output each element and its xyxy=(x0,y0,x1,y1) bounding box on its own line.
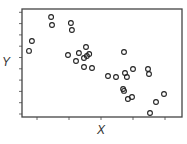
data-point xyxy=(106,74,111,79)
data-point xyxy=(114,75,119,80)
data-point xyxy=(49,15,54,20)
data-point xyxy=(82,65,87,70)
data-point xyxy=(70,28,75,33)
data-point xyxy=(90,66,95,71)
data-point xyxy=(74,59,79,64)
data-point xyxy=(125,75,130,80)
data-points xyxy=(27,15,167,116)
data-point xyxy=(66,53,71,58)
data-point xyxy=(77,51,82,56)
data-point xyxy=(84,45,89,50)
data-point xyxy=(50,23,55,28)
scatter-plot xyxy=(0,0,187,144)
data-point xyxy=(162,92,167,97)
data-point xyxy=(148,111,153,116)
data-point xyxy=(27,49,32,54)
data-point xyxy=(122,50,127,55)
data-point xyxy=(131,67,136,72)
data-point xyxy=(154,100,159,105)
data-point xyxy=(130,95,135,100)
y-axis-label: Y xyxy=(2,56,10,68)
x-axis-label: X xyxy=(97,124,105,136)
data-point xyxy=(30,39,35,44)
data-point xyxy=(146,67,151,72)
data-point xyxy=(69,21,74,26)
data-point xyxy=(147,72,152,77)
